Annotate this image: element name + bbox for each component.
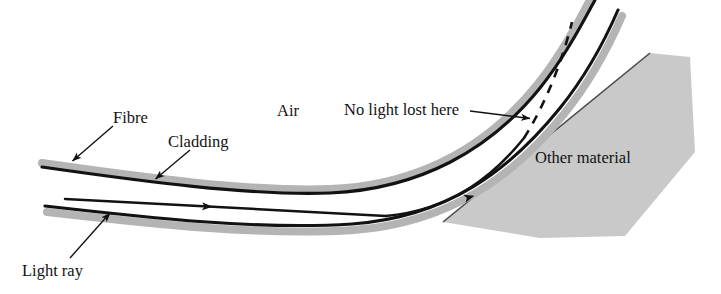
fibre-light-loss-diagram: Fibre Cladding Air No light lost here Ot… (0, 0, 721, 294)
diagram-canvas (0, 0, 721, 294)
label-cladding: Cladding (168, 132, 229, 152)
label-other-material: Other material (535, 148, 631, 168)
light-ray-arrow-1 (120, 202, 212, 207)
label-fibre: Fibre (113, 108, 148, 128)
label-air: Air (277, 101, 299, 121)
cladding-leader-arrow (156, 150, 191, 179)
fibre-leader-arrow (73, 126, 114, 161)
label-no-light-lost-here: No light lost here (344, 100, 459, 120)
no-light-lost-leader-arrow (470, 111, 530, 119)
label-light-ray: Light ray (22, 261, 83, 281)
